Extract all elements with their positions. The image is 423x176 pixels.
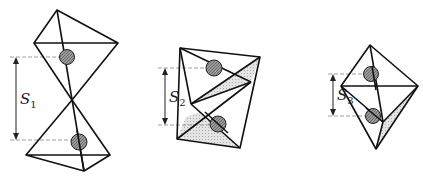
dimension-arrow-s2 bbox=[162, 68, 168, 125]
figure-1: S1 bbox=[10, 10, 118, 171]
lower-tetrahedron bbox=[26, 155, 110, 171]
dimension-arrow-s1 bbox=[13, 57, 19, 140]
ball-top bbox=[206, 60, 222, 76]
dimension-arrow-s3 bbox=[330, 74, 336, 116]
ball-top bbox=[60, 50, 75, 65]
figure-2: S2 bbox=[158, 48, 260, 148]
ball-bottom bbox=[366, 109, 381, 124]
ball-top bbox=[364, 67, 379, 82]
upper-tetrahedron bbox=[34, 10, 118, 43]
figure-3: S3 bbox=[328, 45, 418, 149]
label-s1: S1 bbox=[20, 90, 37, 110]
tetrahedra-diagram: S1 S2 bbox=[0, 0, 423, 176]
